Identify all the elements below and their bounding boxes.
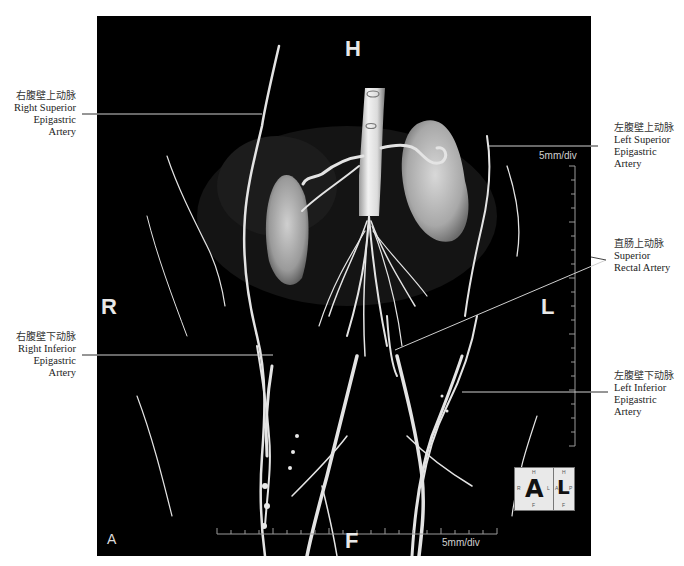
label-en-line: Artery [4,367,76,379]
horizontal-scale-label: 5mm/div [442,538,480,548]
label-zh: 左腹壁上动脉 [614,122,684,134]
cube-front-left: R [517,486,521,491]
cube-front-top: H [532,470,536,475]
orientation-head-label: H [345,38,361,60]
label-en-line: Epigastric [614,394,684,406]
label-en-line: Left Inferior [614,382,684,394]
label-en-line: Superior [614,250,684,262]
label-en-line: Left Superior [614,134,684,146]
label-en-line: Epigastric [614,146,684,158]
cube-side-left: A [555,486,558,491]
label-en-line: Epigastric [4,355,76,367]
cta-render-panel: H F R L A 5mm/div 5mm/div A H R L F L H … [97,16,591,556]
label-left-superior-epigastric-artery: 左腹壁上动脉 Left Superior Epigastric Artery [614,122,684,170]
cube-front-right: L [547,486,550,491]
label-left-inferior-epigastric-artery: 左腹壁下动脉 Left Inferior Epigastric Artery [614,370,684,418]
cube-front-letter: A [525,477,544,501]
label-en-line: Epigastric [4,114,76,126]
panel-letter: A [107,532,116,546]
cube-side-right: P [569,486,572,491]
orientation-right-label: R [101,296,117,318]
vertical-scale-ticks [569,166,575,446]
label-zh: 右腹壁上动脉 [4,90,76,102]
label-right-inferior-epigastric-artery: 右腹壁下动脉 Right Inferior Epigastric Artery [4,331,76,379]
orientation-cube-side: L H A P F [553,467,575,511]
label-zh: 直肠上动脉 [614,238,684,250]
cube-side-bottom: F [562,503,565,508]
cube-side-letter: L [557,477,570,497]
cube-front-bottom: F [532,503,535,508]
label-right-superior-epigastric-artery: 右腹壁上动脉 Right Superior Epigastric Artery [4,90,76,138]
label-zh: 右腹壁下动脉 [4,331,76,343]
label-en-line: Right Superior [4,102,76,114]
label-superior-rectal-artery: 直肠上动脉 Superior Rectal Artery [614,238,684,274]
cube-side-top: H [562,470,566,475]
orientation-cube-front: A H R L F [514,467,554,511]
label-zh: 左腹壁下动脉 [614,370,684,382]
right-kidney [266,175,309,285]
label-en-line: Rectal Artery [614,262,684,274]
label-en-line: Artery [614,406,684,418]
orientation-foot-label: F [345,530,358,552]
label-en-line: Artery [4,126,76,138]
vertical-scale-label: 5mm/div [539,151,577,161]
label-en-line: Right Inferior [4,343,76,355]
label-en-line: Artery [614,158,684,170]
orientation-left-label: L [541,296,554,318]
